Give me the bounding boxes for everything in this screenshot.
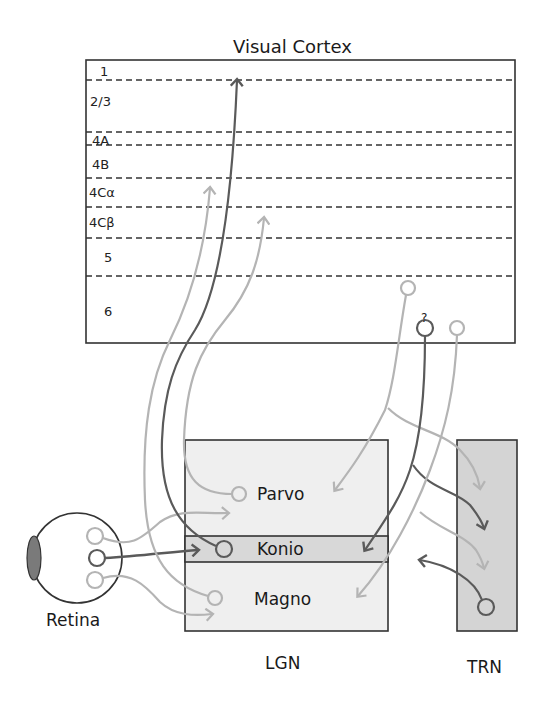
retina-label: Retina — [46, 612, 100, 629]
layer6-neuron-magno-feedback — [450, 321, 464, 335]
trn-label: TRN — [467, 659, 502, 676]
layer-2-3-label: 2/3 — [90, 95, 111, 108]
layer-4c-alpha-label: 4Cα — [89, 186, 115, 199]
visual-cortex-box — [86, 60, 515, 343]
visual-cortex-title: Visual Cortex — [233, 38, 352, 56]
lens-icon — [27, 536, 41, 580]
konio-layer-label: Konio — [257, 541, 304, 558]
layer-5-label: 5 — [104, 251, 112, 264]
layer6-neuron-parvo-feedback — [401, 281, 415, 295]
layer-1-label: 1 — [100, 65, 108, 78]
trn-neuron-icon — [478, 599, 494, 615]
layer-4c-beta-label: 4Cβ — [89, 216, 115, 229]
parvo-layer-label: Parvo — [257, 486, 304, 503]
layer-4b-label: 4B — [92, 158, 109, 171]
magno-layer-label: Magno — [254, 591, 311, 608]
unknown-marker: ? — [421, 312, 427, 324]
lgn-label: LGN — [265, 655, 300, 672]
layer-6-label: 6 — [104, 305, 112, 318]
layer-4a-label: 4A — [92, 134, 109, 147]
